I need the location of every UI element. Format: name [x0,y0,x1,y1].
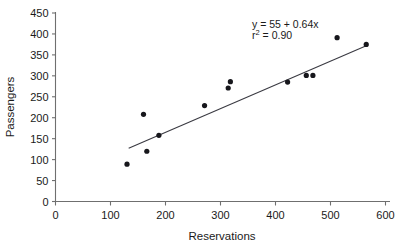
y-tick-label: 300 [30,70,48,82]
data-point [335,35,340,40]
x-tick-label: 600 [376,209,394,221]
x-tick-label: 500 [321,209,339,221]
y-tick-label: 50 [36,175,48,187]
y-tick-label: 0 [42,196,48,208]
data-point [226,85,231,90]
data-point [310,73,315,78]
axes-group [55,12,390,202]
y-tick-label: 400 [30,28,48,40]
data-point [144,149,149,154]
x-tick-label: 300 [211,209,229,221]
x-tick-label: 100 [101,209,119,221]
data-point [202,103,207,108]
data-point [228,79,233,84]
rsquared-annotation: r2 = 0.90 [252,28,292,41]
x-axis-title: Reservations [188,230,255,242]
y-tick-label: 150 [30,133,48,145]
data-point [141,112,146,117]
x-tick-label: 0 [52,209,58,221]
y-tick-label: 350 [30,49,48,61]
y-tick-label: 100 [30,154,48,166]
x-axis-ticks: 0100200300400500600 [52,202,394,221]
x-tick-label: 200 [156,209,174,221]
data-point [124,162,129,167]
data-point [285,80,290,85]
data-point [304,73,309,78]
regression-line [129,46,367,149]
scatter-plot-figure: 050100150200250300350400450 010020030040… [0,0,408,247]
x-tick-label: 400 [266,209,284,221]
plot-canvas: 050100150200250300350400450 010020030040… [0,0,408,247]
y-tick-label: 250 [30,91,48,103]
y-axis-ticks: 050100150200250300350400450 [30,7,55,208]
rsquared-text: r2 = 0.90 [252,28,292,41]
y-axis-title: Passengers [4,76,16,137]
data-points-group [124,35,368,167]
data-point [364,42,369,47]
y-tick-label: 450 [30,7,48,19]
data-point [156,133,161,138]
rsquared-rest: = 0.90 [260,29,293,41]
y-tick-label: 200 [30,112,48,124]
